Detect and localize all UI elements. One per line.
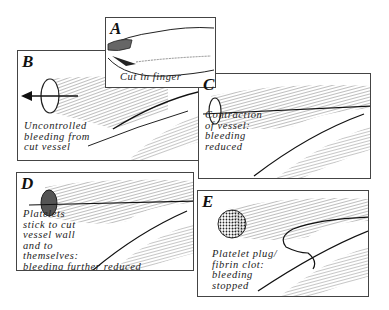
panel-d: D Platelets stick to cut vessel wall and… [16,172,194,271]
panel-e: E Platelet plug/ fibrin clot: bleeding s… [197,190,369,297]
panel-e-caption: Platelet plug/ fibrin clot: bleeding sto… [212,249,277,291]
panel-a: A Cut in finger [105,17,216,88]
panel-b-letter: B [22,52,33,72]
panel-a-caption: Cut in finger [120,72,181,83]
panel-b-caption: Uncontrolled bleeding from cut vessel [24,121,90,153]
panel-c-caption: Contraction of vessel: bleeding reduced [205,110,262,152]
panel-a-letter: A [110,19,121,39]
panel-c-letter: C [203,75,214,95]
panel-c: C Contraction of vessel: bleeding reduce… [198,73,371,179]
panel-e-letter: E [202,192,213,212]
panel-d-letter: D [21,174,33,194]
panel-d-caption: Platelets stick to cut vessel wall and t… [23,209,141,271]
